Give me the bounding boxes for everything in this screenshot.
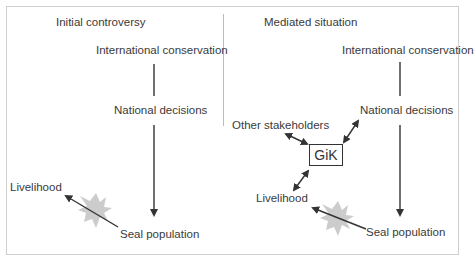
node-international-conservation: International conservation [96,44,228,56]
node-seal-population: Seal population [120,228,199,240]
cropped-caption-strip [0,258,467,274]
node-national-decisions: National decisions [360,104,453,116]
conflict-star-icon [78,193,112,228]
gik-box: GiK [309,144,343,166]
conflict-star-icon [320,201,354,236]
node-livelihood: Livelihood [256,192,308,204]
node-national-decisions: National decisions [114,104,207,116]
node-seal-population: Seal population [366,226,445,238]
panel-title-mediated: Mediated situation [264,16,357,28]
panel-title-initial: Initial controversy [56,16,145,28]
node-other-stakeholders: Other stakeholders [232,119,329,131]
node-livelihood: Livelihood [10,181,62,193]
node-international-conservation: International conservation [342,44,474,56]
